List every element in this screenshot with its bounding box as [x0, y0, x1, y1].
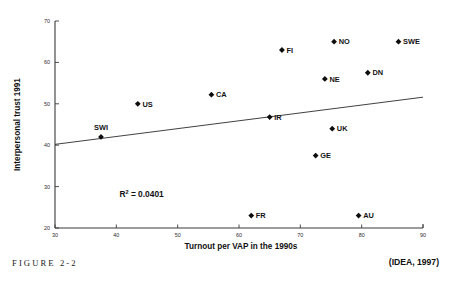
figure-caption: FIGURE 2-2	[12, 258, 78, 268]
data-point-marker-swe	[396, 39, 402, 45]
x-tick-label-60: 60	[236, 232, 242, 238]
data-point-marker-ne	[322, 76, 328, 82]
y-tick-label-70: 70	[44, 18, 50, 24]
data-point-marker-au	[356, 213, 362, 219]
y-tick-label-30: 30	[44, 184, 50, 190]
axis-ticks-group	[55, 21, 423, 228]
data-point-marker-us	[135, 101, 141, 107]
axes-group	[55, 21, 423, 228]
data-point-marker-fr	[248, 213, 254, 219]
x-tick-label-50: 50	[175, 232, 181, 238]
data-point-label-ge: GE	[320, 151, 331, 160]
data-point-marker-uk	[329, 126, 335, 132]
y-tick-label-60: 60	[44, 59, 50, 65]
x-axis-title: Turnout per VAP in the 1990s	[185, 242, 298, 251]
regression-trend-line	[55, 97, 423, 144]
data-point-label-fr: FR	[256, 211, 267, 220]
source-note: (IDEA, 1997)	[389, 257, 439, 267]
data-point-marker-fi	[279, 47, 285, 53]
data-point-label-uk: UK	[337, 124, 348, 133]
data-point-marker-no	[331, 39, 337, 45]
figure-container: 20304050607030405060708090 SWIUSCAIRFIGE…	[0, 0, 451, 282]
data-point-marker-ca	[209, 92, 215, 98]
y-axis-title: Interpersonal trust 1991	[13, 78, 22, 171]
r-squared-value: = 0.0401	[129, 189, 165, 199]
annotations-group: R2 = 0.0401	[119, 189, 164, 199]
trend-line-group	[55, 97, 423, 144]
scatter-plot: 20304050607030405060708090 SWIUSCAIRFIGE…	[0, 0, 451, 282]
data-point-label-dn: DN	[372, 68, 383, 77]
data-point-marker-ir	[267, 114, 273, 120]
data-point-label-swi: SWI	[94, 123, 108, 132]
data-point-label-ir: IR	[274, 113, 282, 122]
r-squared-annotation: R2 = 0.0401	[119, 189, 164, 199]
y-tick-label-40: 40	[44, 142, 50, 148]
data-point-marker-ge	[313, 153, 319, 159]
data-point-label-au: AU	[363, 211, 374, 220]
x-tick-label-70: 70	[297, 232, 303, 238]
x-tick-label-40: 40	[113, 232, 119, 238]
data-point-label-fi: FI	[287, 46, 294, 55]
data-point-label-ne: NE	[329, 75, 339, 84]
x-tick-label-90: 90	[420, 232, 426, 238]
x-tick-label-80: 80	[359, 232, 365, 238]
data-point-label-swe: SWE	[403, 37, 420, 46]
y-tick-label-50: 50	[44, 101, 50, 107]
y-tick-label-20: 20	[44, 225, 50, 231]
data-point-marker-dn	[365, 70, 371, 76]
x-tick-label-30: 30	[52, 232, 58, 238]
data-point-label-no: NO	[339, 37, 350, 46]
data-point-label-ca: CA	[216, 90, 227, 99]
data-point-label-us: US	[142, 100, 152, 109]
